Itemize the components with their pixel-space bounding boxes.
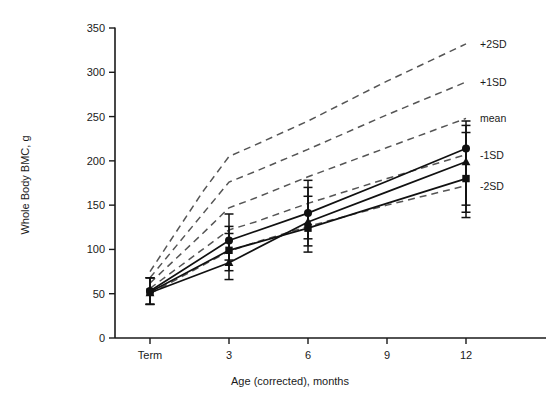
sd-label-+1SD: +1SD: [480, 76, 507, 88]
y-axis-title: Whole Body BMC, g: [19, 135, 31, 234]
sd-label-+2SD: +2SD: [480, 38, 507, 50]
x-tick-label: 12: [460, 349, 472, 361]
sd-label--1SD: -1SD: [480, 149, 504, 161]
figure-background: [0, 0, 559, 409]
x-tick-label: Term: [138, 349, 162, 361]
x-tick-label: 3: [226, 349, 232, 361]
y-tick-label: 150: [87, 199, 105, 211]
y-tick-label: 100: [87, 243, 105, 255]
sd-label--2SD: -2SD: [480, 180, 504, 192]
x-axis-title: Age (corrected), months: [231, 375, 349, 387]
sd-label-mean: mean: [480, 112, 506, 124]
y-tick-label: 200: [87, 155, 105, 167]
x-tick-label: 6: [305, 349, 311, 361]
whole-body-bmc-growth-chart: 050100150200250300350 Term36912 +2SD+1SD…: [0, 0, 559, 409]
y-tick-label: 300: [87, 66, 105, 78]
chart-figure: 050100150200250300350 Term36912 +2SD+1SD…: [0, 0, 559, 409]
y-tick-label: 350: [87, 22, 105, 34]
y-tick-label: 0: [99, 332, 105, 344]
x-tick-label: 9: [384, 349, 390, 361]
y-tick-label: 250: [87, 111, 105, 123]
y-tick-label: 50: [93, 288, 105, 300]
